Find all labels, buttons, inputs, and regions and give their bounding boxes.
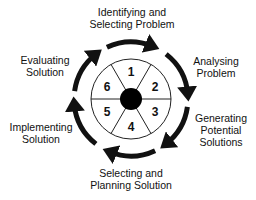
segment-number-5: 5 [104, 105, 111, 119]
segment-number-6: 6 [104, 80, 111, 94]
center-hub [120, 88, 142, 110]
segment-number-4: 4 [128, 120, 135, 134]
segment-number-2: 2 [152, 80, 159, 94]
segment-number-3: 3 [152, 105, 159, 119]
cycle-diagram: 1 2 3 4 5 6 [0, 0, 256, 200]
arrow-arc-icon [107, 42, 152, 47]
arrow-arc-icon [166, 107, 187, 144]
arrow-arc-icon [75, 54, 96, 91]
segment-number-1: 1 [128, 65, 135, 79]
arrow-arc-icon [110, 151, 156, 156]
